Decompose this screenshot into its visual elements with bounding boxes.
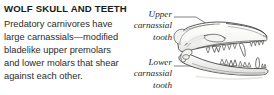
upper-premolar xyxy=(222,45,226,50)
upper-incisor xyxy=(254,41,257,46)
upper-incisor xyxy=(250,42,253,47)
lower-premolar xyxy=(243,62,247,67)
wolf-skull-artwork xyxy=(0,0,274,95)
upper-premolar xyxy=(206,48,210,53)
wolf-skull-illustration-panel: WOLF SKULL AND TEETH Predatory carnivore… xyxy=(0,0,274,95)
drop-shadow xyxy=(196,77,262,79)
upper-carnassial-tooth xyxy=(212,46,221,53)
lower-premolar xyxy=(239,61,243,66)
lower-premolar xyxy=(247,63,250,67)
lower-molar xyxy=(220,59,224,64)
upper-incisor xyxy=(262,41,264,45)
mandible-outline xyxy=(179,54,268,76)
lower-incisor xyxy=(264,64,266,67)
lower-carnassial-tooth xyxy=(229,60,237,66)
lower-canine-tooth xyxy=(256,58,260,69)
upper-premolar xyxy=(228,44,232,49)
wolf-skull-svg xyxy=(0,0,274,95)
upper-premolar xyxy=(233,44,237,49)
upper-incisor xyxy=(258,41,260,45)
lower-molar xyxy=(224,59,228,64)
upper-canine-tooth xyxy=(239,43,245,56)
lower-incisor xyxy=(261,64,263,68)
cranium-group xyxy=(174,22,267,52)
mandibular-condyle xyxy=(183,55,190,60)
